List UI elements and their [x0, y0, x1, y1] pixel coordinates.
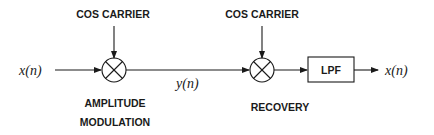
- modulator-carrier-label: COS CARRIER: [76, 8, 150, 20]
- am-block-diagram: x(n) COS CARRIER AMPLITUDE MODULATION y(…: [0, 0, 434, 135]
- output-signal-label: x(n): [384, 63, 408, 79]
- modulator-caption-line2: MODULATION: [80, 116, 150, 128]
- demodulator-multiplier-icon: [250, 58, 274, 82]
- modulator-caption-line1: AMPLITUDE: [84, 97, 145, 109]
- demodulator-carrier-label: COS CARRIER: [225, 8, 299, 20]
- input-signal-label: x(n): [18, 63, 42, 79]
- lpf-block: LPF: [308, 57, 354, 82]
- lpf-label: LPF: [321, 64, 341, 76]
- demodulator-caption: RECOVERY: [251, 101, 310, 113]
- modulator-multiplier-icon: [102, 58, 126, 82]
- modulated-signal-label: y(n): [174, 76, 199, 92]
